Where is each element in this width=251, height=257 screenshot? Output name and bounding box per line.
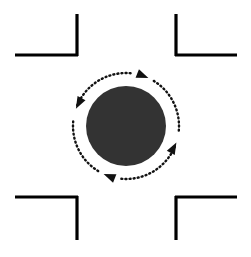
figure-root: Rotating disc with counterclockwise moti… — [0, 0, 251, 257]
rotating-disc-diagram: Rotating disc with counterclockwise moti… — [0, 0, 251, 257]
central-disc — [86, 86, 166, 166]
